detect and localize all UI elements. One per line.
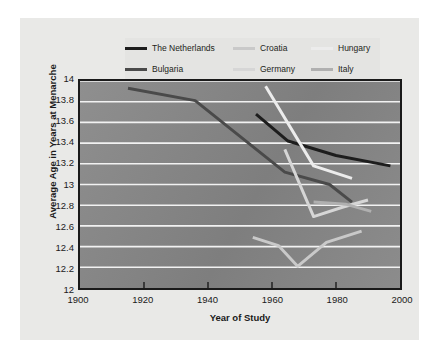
y-axis-tick-label: 13.4 (56, 138, 75, 148)
plot-frame (78, 79, 402, 290)
y-axis-tick-label: 12.6 (56, 222, 75, 232)
x-axis-tick-label: 1960 (262, 295, 283, 305)
y-axis-tick-label: 12.8 (56, 201, 75, 211)
chart-legend: The Netherlands Croatia Hungary Bulgaria… (125, 38, 380, 80)
x-axis-tick-label: 1920 (132, 295, 153, 305)
chart-figure: The Netherlands Croatia Hungary Bulgaria… (20, 18, 419, 340)
legend-label-italy: Italy (338, 65, 354, 74)
legend-swatch-bulgaria (125, 68, 147, 71)
x-axis-tick-label: 1900 (67, 295, 88, 305)
legend-label-germany: Germany (260, 65, 295, 74)
legend-item-hungary[interactable]: Hungary (311, 38, 383, 59)
y-axis-title: Average Age in Years at Menarche (47, 47, 58, 237)
x-axis-title: Year of Study (78, 312, 402, 323)
legend-item-italy[interactable]: Italy (311, 59, 383, 80)
y-axis-tick-label: 12.2 (56, 264, 75, 274)
data-series-group (80, 81, 400, 288)
y-axis-tick-label: 13 (63, 180, 74, 190)
legend-label-hungary: Hungary (338, 44, 370, 53)
legend-item-germany[interactable]: Germany (233, 59, 311, 80)
y-axis-tick-label: 13.6 (56, 116, 75, 126)
x-axis-tick-label: 1940 (197, 295, 218, 305)
legend-item-the-netherlands[interactable]: The Netherlands (125, 38, 233, 59)
y-axis-tick-label: 13.8 (56, 95, 75, 105)
series-line-bulgaria (128, 88, 352, 202)
legend-item-bulgaria[interactable]: Bulgaria (125, 59, 233, 80)
x-axis-tick-labels: 190019201940196019802000 (78, 295, 402, 309)
x-axis-tick-label: 1980 (327, 295, 348, 305)
legend-label-bulgaria: Bulgaria (152, 65, 183, 74)
legend-swatch-hungary (311, 47, 333, 50)
legend-label-the-netherlands: The Netherlands (152, 44, 215, 53)
series-line-the-netherlands (256, 114, 390, 166)
legend-swatch-germany (233, 68, 255, 71)
y-axis-tick-label: 14 (63, 74, 74, 84)
series-line-croatia (253, 231, 362, 266)
legend-swatch-italy (311, 68, 333, 71)
y-axis-tick-label: 13.2 (56, 159, 75, 169)
y-axis-tick-label: 12.4 (56, 243, 75, 253)
plot-area (78, 79, 402, 290)
x-axis-tick-label: 2000 (391, 295, 412, 305)
legend-label-croatia: Croatia (260, 44, 287, 53)
legend-item-croatia[interactable]: Croatia (233, 38, 311, 59)
legend-swatch-the-netherlands (125, 47, 147, 50)
legend-swatch-croatia (233, 47, 255, 50)
